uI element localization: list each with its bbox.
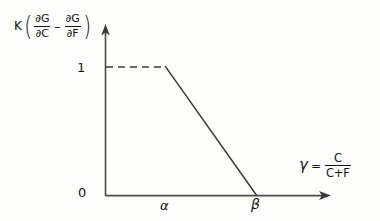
function-plot-figure: K ( ∂G ∂C – ∂G ∂F ) γ = C C+F 1 0 α β [0,0,380,221]
x-axis-label: γ = C C+F [299,152,352,179]
x-tick-label-alpha: α [160,199,169,212]
partial-f-denominator: ∂F [66,28,80,40]
y-axis-label: K ( ∂G ∂C – ∂G ∂F ) [14,13,92,39]
partial-g-numerator-c: ∂G [34,13,50,25]
declining-line [166,67,257,196]
minus-operator: – [54,20,61,33]
y-axis-label-open-paren: ( [24,15,32,37]
x-tick-label-beta: β [251,197,260,211]
c-numerator: C [333,152,343,164]
y-tick-label-zero: 0 [78,186,86,199]
partial-c-denominator: ∂C [35,28,50,40]
gamma-symbol: γ [299,158,308,173]
y-tick-label-one: 1 [77,61,85,74]
c-plus-f-denominator: C+F [325,167,351,179]
partial-g-partial-f-fraction: ∂G ∂F [65,13,81,39]
c-over-c-plus-f-fraction: C C+F [325,152,351,179]
y-axis-label-close-paren: ) [83,15,91,37]
equals-sign: = [311,160,321,172]
partial-g-partial-c-fraction: ∂G ∂C [34,13,50,39]
partial-g-numerator-f: ∂G [65,13,81,25]
y-axis-label-k: K [14,20,22,32]
